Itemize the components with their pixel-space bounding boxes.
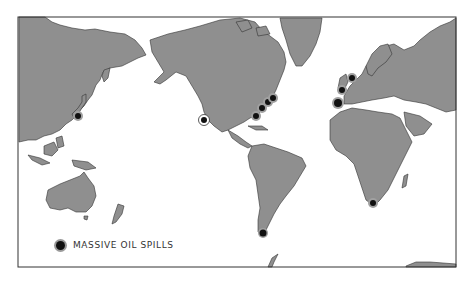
map-legend: MASSIVE OIL SPILLS	[56, 240, 174, 250]
oil-spill-marker-magellan	[258, 228, 268, 238]
oil-spill-marker-channel	[337, 85, 347, 95]
oil-spill-marker-gulf	[251, 111, 261, 121]
oil-spill-marker-south-africa	[368, 198, 378, 208]
oil-spill-legend-icon	[56, 241, 65, 250]
tasmania-landmass	[84, 216, 88, 220]
oil-spill-marker-california	[199, 115, 210, 126]
oil-spill-marker-iberia	[332, 97, 344, 109]
oil-spill-marker-north-sea	[347, 73, 357, 83]
legend-label: MASSIVE OIL SPILLS	[73, 240, 174, 250]
oil-spill-marker-east-coast-north	[268, 93, 278, 103]
oil-spill-marker-japan	[73, 111, 83, 121]
